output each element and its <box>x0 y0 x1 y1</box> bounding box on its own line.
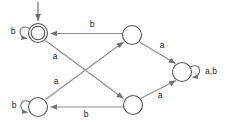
edge-label-q1-q4: a <box>160 40 165 50</box>
edge-line-q0-q3 <box>46 41 124 99</box>
edge-top-middle-to-accepting: b <box>51 19 123 33</box>
state-bottom-left-circle[interactable] <box>29 98 48 117</box>
automaton-svg: q0 : top horizontal, rightward state to … <box>0 0 231 125</box>
edge-label-q3-q2: b <box>84 109 89 119</box>
edge-line-q1-q4 <box>140 42 176 64</box>
self-loop-accepting: b <box>11 26 30 38</box>
state-top-middle[interactable] <box>123 26 142 45</box>
edge-top-middle-to-trap: a <box>140 40 176 63</box>
self-loop-label-q2: b <box>12 100 17 110</box>
state-bottom-middle[interactable] <box>124 96 143 115</box>
edge-bottom-middle-to-trap: a <box>141 81 177 101</box>
self-loop-label-q0: b <box>11 26 16 36</box>
state-accepting[interactable] <box>29 24 48 43</box>
edge-label-q0-q3: a <box>53 51 58 61</box>
state-bottom-left[interactable] <box>29 98 48 117</box>
self-loop-bottom-left: b <box>12 100 30 112</box>
edge-bottom-middle-to-bottom-left: b <box>51 107 124 119</box>
edge-accepting-to-bottom-middle: a <box>46 41 124 99</box>
state-trap[interactable] <box>173 63 192 82</box>
edge-label-q3-q4: a <box>158 90 163 100</box>
self-loop-label-q4: a,b <box>205 66 217 76</box>
automaton-diagram: q0 : top horizontal, rightward state to … <box>0 0 231 125</box>
self-loop-trap: a,b <box>190 66 217 78</box>
state-trap-circle[interactable] <box>173 63 192 82</box>
edge-label-q2-q1: a <box>54 76 59 86</box>
state-bottom-middle-circle[interactable] <box>124 96 143 115</box>
edge-label-q1-q0: b <box>90 19 95 29</box>
state-top-middle-circle[interactable] <box>123 26 142 45</box>
